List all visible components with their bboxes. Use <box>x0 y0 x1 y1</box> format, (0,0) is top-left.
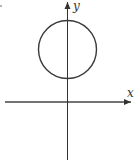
coordinate-plane-diagram: y x <box>0 0 136 163</box>
x-axis-label: x <box>127 86 134 100</box>
stray-mark <box>0 5 2 7</box>
y-axis-label: y <box>72 0 80 13</box>
